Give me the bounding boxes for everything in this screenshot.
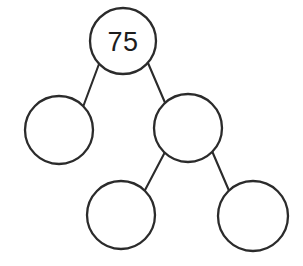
binary-tree-diagram: 75: [0, 0, 303, 266]
tree-node-right-child[interactable]: [154, 94, 222, 162]
tree-node-left-child[interactable]: [25, 96, 93, 164]
tree-node-root[interactable]: 75: [90, 8, 156, 74]
tree-canvas: 75: [0, 0, 303, 266]
node-label-root: 75: [107, 27, 138, 57]
edge-root-to-left-child: [83, 64, 99, 107]
edge-right-child-to-left-grandchild: [144, 152, 165, 192]
tree-node-right-left-grandchild[interactable]: [87, 181, 155, 249]
node-circle-right-child[interactable]: [154, 94, 222, 162]
edge-right-child-to-right-grandchild: [212, 151, 230, 193]
node-circle-left-child[interactable]: [25, 96, 93, 164]
node-group: 75: [25, 8, 288, 251]
node-circle-right-right-grandchild[interactable]: [218, 181, 288, 251]
node-circle-right-left-grandchild[interactable]: [87, 181, 155, 249]
tree-node-right-right-grandchild[interactable]: [218, 181, 288, 251]
edge-root-to-right-child: [148, 63, 166, 105]
